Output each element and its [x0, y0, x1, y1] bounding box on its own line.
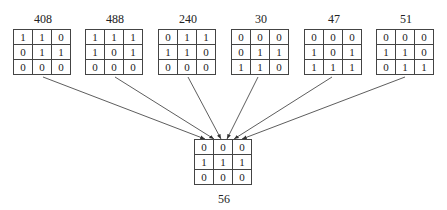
grid-cell: 0	[197, 45, 216, 60]
arrow-408	[43, 77, 205, 139]
grid-cell: 0	[33, 60, 52, 75]
grid-cell: 1	[251, 60, 270, 75]
grid-cell: 1	[195, 155, 214, 170]
grid-cell: 1	[105, 30, 124, 45]
grid-cell: 0	[232, 45, 251, 60]
grid-cell: 1	[33, 30, 52, 45]
grid-cell: 1	[233, 155, 252, 170]
grid-cell: 0	[377, 60, 396, 75]
arrow-488	[115, 77, 214, 139]
grid-cell: 1	[178, 30, 197, 45]
target-label: 56	[194, 192, 254, 207]
grid-cell: 0	[52, 60, 71, 75]
grid-cell: 1	[52, 45, 71, 60]
grid-cell: 1	[232, 60, 251, 75]
grid-cell: 0	[324, 30, 343, 45]
grid-cell: 0	[105, 45, 124, 60]
grid-cell: 0	[396, 30, 415, 45]
grid-cell: 0	[124, 60, 143, 75]
source-grid: 000110011	[376, 29, 434, 75]
grid-cell: 0	[251, 30, 270, 45]
grid-cell: 1	[251, 45, 270, 60]
grid-cell: 1	[124, 45, 143, 60]
grid-cell: 0	[415, 30, 434, 45]
grid-cell: 0	[159, 60, 178, 75]
grid-cell: 1	[124, 30, 143, 45]
grid-cell: 0	[105, 60, 124, 75]
grid-cell: 0	[270, 30, 289, 45]
target-grid: 000111000	[194, 139, 252, 185]
grid-cell: 0	[270, 60, 289, 75]
grid-cell: 1	[197, 30, 216, 45]
grid-cell: 0	[14, 45, 33, 60]
arrow-240	[188, 77, 221, 139]
grid-cell: 1	[305, 60, 324, 75]
grid-cell: 1	[324, 60, 343, 75]
grid-cell: 1	[305, 45, 324, 60]
grid-cell: 0	[232, 30, 251, 45]
grid-cell: 1	[343, 60, 362, 75]
grid-cell: 1	[415, 60, 434, 75]
grid-cell: 0	[195, 140, 214, 155]
grid-cell: 0	[159, 30, 178, 45]
source-grid: 000011110	[231, 29, 289, 75]
grid-cell: 1	[178, 45, 197, 60]
source-grid: 111101000	[85, 29, 143, 75]
grid-cell: 1	[270, 45, 289, 60]
grid-cell: 1	[86, 30, 105, 45]
grid-cell: 1	[86, 45, 105, 60]
grid-cell: 0	[197, 60, 216, 75]
grid-cell: 1	[214, 155, 233, 170]
grid-cell: 0	[305, 30, 324, 45]
grid-cell: 1	[343, 45, 362, 60]
arrow-47	[234, 77, 332, 139]
grid-cell: 1	[377, 45, 396, 60]
source-label: 47	[304, 12, 364, 27]
grid-cell: 1	[396, 60, 415, 75]
grid-cell: 1	[159, 45, 178, 60]
grid-cell: 0	[343, 30, 362, 45]
grid-cell: 0	[377, 30, 396, 45]
source-grid: 011110000	[158, 29, 216, 75]
grid-cell: 0	[52, 30, 71, 45]
grid-cell: 1	[14, 30, 33, 45]
grid-cell: 1	[396, 45, 415, 60]
grid-cell: 0	[324, 45, 343, 60]
grid-cell: 0	[14, 60, 33, 75]
grid-cell: 1	[33, 45, 52, 60]
source-label: 30	[231, 12, 291, 27]
source-label: 488	[85, 12, 145, 27]
grid-cell: 0	[178, 60, 197, 75]
arrow-51	[242, 77, 405, 139]
grid-cell: 0	[415, 45, 434, 60]
source-grid: 110011000	[13, 29, 71, 75]
source-label: 408	[13, 12, 73, 27]
diagram-canvas: 4081100110004881111010002400111100003000…	[0, 0, 447, 210]
arrow-30	[227, 77, 258, 139]
grid-cell: 0	[195, 170, 214, 185]
source-label: 51	[376, 12, 436, 27]
grid-cell: 0	[214, 140, 233, 155]
grid-cell: 0	[233, 140, 252, 155]
grid-cell: 0	[233, 170, 252, 185]
grid-cell: 0	[214, 170, 233, 185]
grid-cell: 0	[86, 60, 105, 75]
source-grid: 000101111	[304, 29, 362, 75]
source-label: 240	[158, 12, 218, 27]
